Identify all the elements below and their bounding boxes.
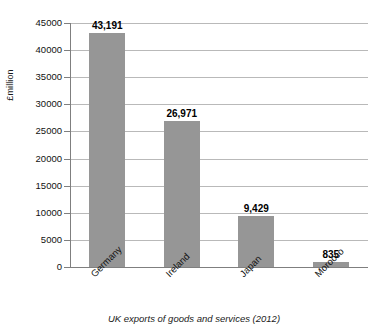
plot-area [70,23,368,267]
y-axis-tick-label: 25000 [10,126,62,136]
bar[interactable] [164,121,200,267]
bar-value-label: 26,971 [142,108,222,119]
x-axis-title: UK exports of goods and services (2012) [0,313,388,324]
y-axis-tick-label: 45000 [10,18,62,28]
y-axis-tick-label: 35000 [10,72,62,82]
bar-chart: £million 4500040000350003000025000200001… [0,0,388,334]
y-axis-tick-label: 0 [10,262,62,272]
bar[interactable] [89,33,125,267]
bar-value-label: 9,429 [216,203,296,214]
y-axis-tick-label: 30000 [10,99,62,109]
bar-value-label: 43,191 [67,20,147,31]
y-axis-tick-label: 5000 [10,235,62,245]
y-axis-tick-label: 20000 [10,154,62,164]
y-axis-tick-label: 40000 [10,45,62,55]
y-axis-tick-label: 10000 [10,208,62,218]
y-axis-tick-label: 15000 [10,181,62,191]
